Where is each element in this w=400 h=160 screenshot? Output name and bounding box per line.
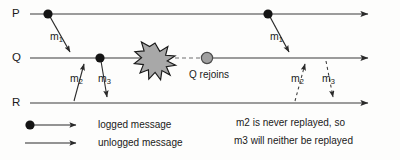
message-label-m1-first: m1 <box>50 31 63 42</box>
m3-first-subscript: 3 <box>107 77 111 86</box>
message-label-m3-second: m3 <box>322 73 335 84</box>
m1-first-base: m <box>50 30 59 42</box>
m2-first-base: m <box>70 72 79 84</box>
m1-first-subscript: 1 <box>59 35 63 44</box>
message-label-m2-second: m2 <box>291 73 304 84</box>
legend-unlogged-label: unlogged message <box>98 138 183 148</box>
m1-second-base: m <box>270 30 279 42</box>
m3-second-base: m <box>322 72 331 84</box>
m3-first-base: m <box>98 72 107 84</box>
crash-starburst-icon <box>134 42 175 80</box>
m3-second-subscript: 3 <box>331 77 335 86</box>
message-label-m1-second: m1 <box>270 31 283 42</box>
annotation-line-2: m3 will neither be replayed <box>234 136 353 146</box>
process-label-q: Q <box>12 52 21 64</box>
legend-logged-glyph <box>25 120 76 129</box>
m1-first-logged-dot <box>43 9 52 18</box>
process-label-r: R <box>12 97 21 109</box>
m2-second-base: m <box>291 72 300 84</box>
message-label-m3-first: m3 <box>98 73 111 84</box>
q-rejoins-circle <box>201 52 212 63</box>
legend-logged-dot <box>25 120 34 129</box>
message-logging-diagram: P Q R m1 m2 m3 m1 m2 m3 Q rejoins logged… <box>0 0 400 160</box>
m2-first-subscript: 2 <box>79 77 83 86</box>
m1-second-subscript: 1 <box>279 35 283 44</box>
process-label-p: P <box>12 8 20 20</box>
annotation-line-1: m2 is never replayed, so <box>236 118 345 128</box>
q-rejoins-marker <box>201 52 212 63</box>
m2-second-subscript: 2 <box>300 77 304 86</box>
crash-star-shape <box>134 42 175 80</box>
q-rejoins-label: Q rejoins <box>189 70 229 80</box>
m3-first-logged-dot <box>95 53 104 62</box>
message-label-m2-first: m2 <box>70 73 83 84</box>
m1-second-logged-dot <box>263 9 272 18</box>
legend-logged-label: logged message <box>98 120 171 130</box>
